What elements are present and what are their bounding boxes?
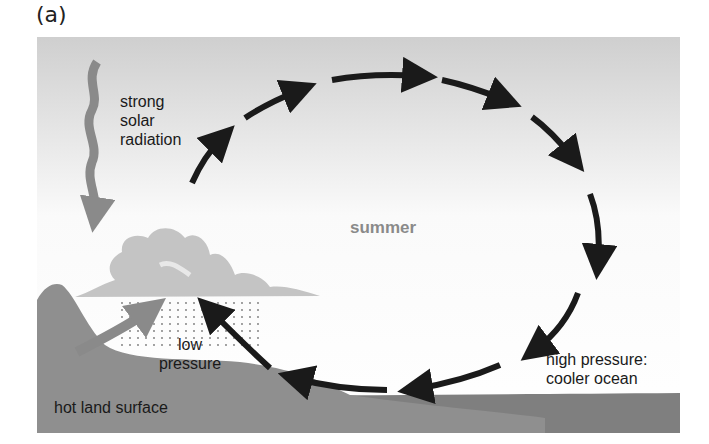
solar-radiation-arrow [89, 62, 97, 215]
low-pressure-label: low pressure [160, 335, 220, 373]
land-surface-label: hot land surface [54, 398, 168, 417]
high-pressure-label: high pressure: cooler ocean [546, 350, 647, 388]
season-label: summer [350, 218, 416, 238]
solar-radiation-label: strong solar radiation [120, 92, 181, 149]
